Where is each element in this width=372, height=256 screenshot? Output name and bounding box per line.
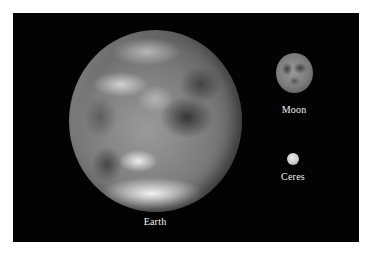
moon-label: Moon — [264, 104, 324, 115]
image-panel: Earth Moon Ceres — [13, 13, 359, 242]
earth-label: Earth — [125, 216, 185, 227]
ceres-image — [287, 153, 299, 165]
earth-image — [69, 30, 242, 212]
moon-image — [276, 53, 313, 93]
ceres-label: Ceres — [263, 171, 323, 182]
